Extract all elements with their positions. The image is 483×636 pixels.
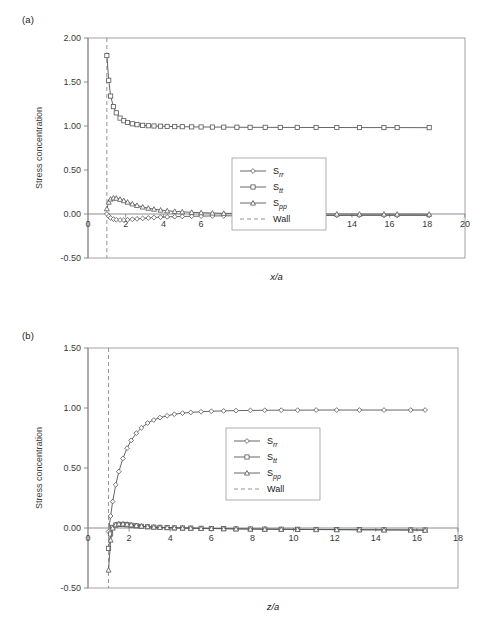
data-point <box>125 446 130 451</box>
data-point <box>423 408 428 413</box>
data-point <box>165 124 169 128</box>
data-point <box>314 408 319 413</box>
y-tick-label: 1.50 <box>63 77 81 87</box>
data-point <box>209 409 214 414</box>
x-tick-label: 6 <box>199 219 204 229</box>
x-tick-label: 18 <box>453 533 463 543</box>
x-tick-label: 20 <box>460 219 470 229</box>
data-point <box>110 499 115 504</box>
y-tick-label: 0.50 <box>63 463 81 473</box>
legend-marker-square <box>251 185 255 189</box>
data-point <box>408 408 413 413</box>
data-point <box>279 408 284 413</box>
series-S_tt <box>105 54 432 130</box>
x-tick-label: 6 <box>209 533 214 543</box>
data-point <box>104 206 109 211</box>
data-point <box>107 78 111 82</box>
data-point <box>135 216 140 221</box>
data-point <box>248 125 252 129</box>
legend-label: Wall <box>267 484 284 494</box>
data-point <box>105 54 109 58</box>
y-axis-title: Stress concentration <box>34 107 44 189</box>
chart-panel-a: (a) -0.500.000.501.001.502.0002468101214… <box>0 0 483 318</box>
x-tick-label: 12 <box>330 533 340 543</box>
y-tick-label: 1.00 <box>63 403 81 413</box>
series-S_pp <box>106 521 428 572</box>
x-tick-label: 16 <box>385 219 395 229</box>
data-point <box>180 125 184 129</box>
data-point <box>121 456 126 461</box>
data-point <box>152 124 156 128</box>
data-point <box>382 125 386 129</box>
x-tick-label: 0 <box>85 219 90 229</box>
data-point <box>140 216 145 221</box>
data-point <box>130 122 134 126</box>
x-axis-title: x/a <box>269 271 283 282</box>
data-point <box>146 216 151 221</box>
data-point <box>357 408 362 413</box>
data-point <box>158 415 163 420</box>
x-tick-label: 16 <box>412 533 422 543</box>
data-point <box>180 214 185 219</box>
chart-b-svg: -0.500.000.501.001.50024681012141618Stre… <box>0 318 483 636</box>
data-point <box>334 408 339 413</box>
x-tick-label: 2 <box>127 533 132 543</box>
data-point <box>235 125 239 129</box>
data-point <box>151 418 156 423</box>
x-tick-label: 8 <box>250 533 255 543</box>
data-point <box>263 125 267 129</box>
data-point <box>190 125 194 129</box>
y-axis-title: Stress concentration <box>34 427 44 509</box>
data-point <box>130 217 135 222</box>
data-point <box>262 408 267 413</box>
x-tick-label: 0 <box>85 533 90 543</box>
data-point <box>165 413 170 418</box>
x-tick-label: 4 <box>161 219 166 229</box>
data-point <box>135 123 139 127</box>
data-point <box>295 125 299 129</box>
data-point <box>382 408 387 413</box>
data-point <box>188 410 193 415</box>
data-point <box>158 124 162 128</box>
y-tick-label: 1.00 <box>63 121 81 131</box>
data-point <box>248 408 253 413</box>
y-tick-label: -0.50 <box>60 253 81 263</box>
chart-panel-b: (b) -0.500.000.501.001.50024681012141618… <box>0 318 483 636</box>
figure-container: (a) -0.500.000.501.001.502.0002468101214… <box>0 0 483 636</box>
data-point <box>111 105 115 109</box>
data-point <box>172 412 177 417</box>
data-point <box>335 125 339 129</box>
data-point <box>173 125 177 129</box>
x-tick-label: 10 <box>289 533 299 543</box>
y-tick-label: 0.50 <box>63 165 81 175</box>
data-point <box>109 94 113 98</box>
data-point <box>210 125 214 129</box>
data-point <box>278 125 282 129</box>
data-point <box>141 123 145 127</box>
data-point <box>113 482 118 487</box>
data-point <box>199 125 203 129</box>
data-point <box>427 126 431 130</box>
data-point <box>152 215 157 220</box>
data-point <box>106 568 111 573</box>
y-tick-label: 2.00 <box>63 33 81 43</box>
data-point <box>357 125 361 129</box>
x-axis-title: z/a <box>266 601 280 612</box>
y-tick-label: 0.00 <box>63 523 81 533</box>
data-point <box>116 469 121 474</box>
legend-label: Wall <box>273 214 290 224</box>
data-point <box>172 214 177 219</box>
data-point <box>125 120 129 124</box>
legend-marker-square <box>245 455 249 459</box>
data-point <box>314 125 318 129</box>
data-point <box>199 409 204 414</box>
data-point <box>222 125 226 129</box>
y-tick-label: 0.00 <box>63 209 81 219</box>
data-point <box>180 411 185 416</box>
x-tick-label: 14 <box>371 533 381 543</box>
data-point <box>295 408 300 413</box>
series-line <box>107 56 429 128</box>
data-point <box>146 124 150 128</box>
data-point <box>221 408 226 413</box>
data-point <box>395 125 399 129</box>
